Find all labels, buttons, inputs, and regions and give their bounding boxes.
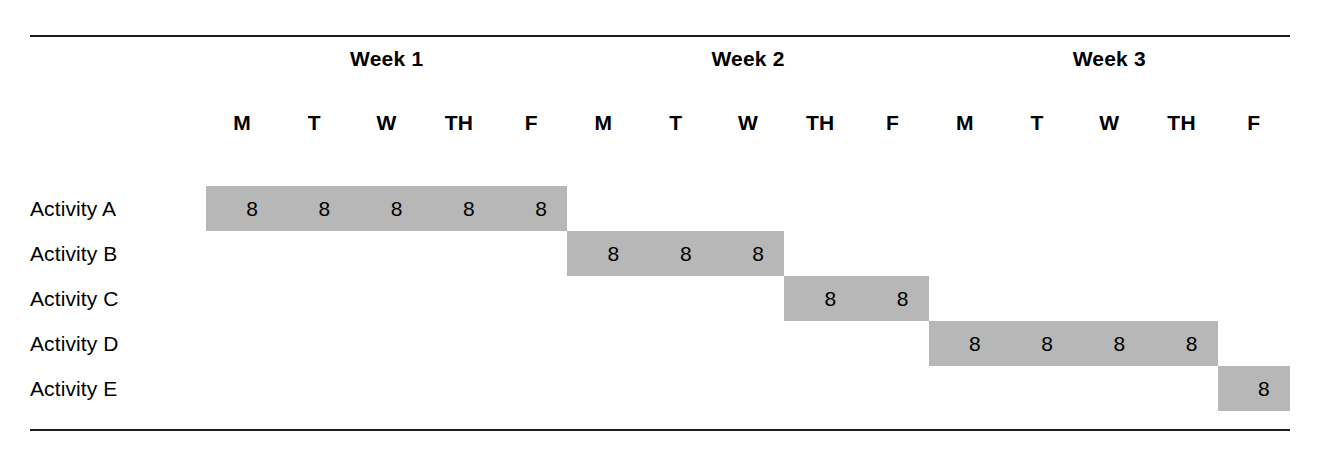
activity-label: Activity B xyxy=(30,231,206,276)
gantt-cell-value: 8 xyxy=(1228,366,1300,411)
gantt-bar-cell: 8 xyxy=(640,231,712,276)
gantt-bar-rows: 88888 888 88 8888 8 xyxy=(206,186,1290,411)
table-row: 8888 xyxy=(206,321,1290,366)
gantt-cell-value: 8 xyxy=(866,276,938,321)
activity-label: Activity D xyxy=(30,321,206,366)
day-header-cell: TH xyxy=(784,108,856,138)
gantt-bar-cell: 8 xyxy=(1001,321,1073,366)
day-header-cell: M xyxy=(567,108,639,138)
gantt-bar: 8888 xyxy=(929,321,1218,366)
day-header-cell: T xyxy=(278,108,350,138)
gantt-bar-cell: 8 xyxy=(351,186,423,231)
day-header-cell: T xyxy=(1001,108,1073,138)
gantt-bar-cell: 8 xyxy=(1218,366,1290,411)
gantt-bar-cell: 8 xyxy=(278,186,350,231)
day-header-cell: TH xyxy=(1145,108,1217,138)
gantt-bar-cell: 8 xyxy=(784,276,856,321)
day-header-row: M T W TH F M T W TH F M T W TH F xyxy=(206,108,1290,138)
day-header-cell: M xyxy=(206,108,278,138)
day-header-cell: F xyxy=(1218,108,1290,138)
day-header-cell: W xyxy=(712,108,784,138)
gantt-bar-cell: 8 xyxy=(206,186,278,231)
gantt-cell-value: 8 xyxy=(505,186,577,231)
activity-label: Activity A xyxy=(30,186,206,231)
gantt-cell-value: 8 xyxy=(1155,321,1227,366)
gantt-bar-cell: 8 xyxy=(1073,321,1145,366)
day-header-cell: F xyxy=(856,108,928,138)
week-header-cell: Week 2 xyxy=(567,44,928,74)
table-row: 88 xyxy=(206,276,1290,321)
day-header-cell: T xyxy=(640,108,712,138)
table-row: 88888 xyxy=(206,186,1290,231)
gantt-bar-cell: 8 xyxy=(929,321,1001,366)
gantt-timeline-grid: Week 1 Week 2 Week 3 M T W TH F M T W TH… xyxy=(206,0,1290,452)
gantt-bar: 888 xyxy=(567,231,784,276)
activity-label: Activity C xyxy=(30,276,206,321)
gantt-bar-cell: 8 xyxy=(1145,321,1217,366)
gantt-bar-cell: 8 xyxy=(495,186,567,231)
day-header-cell: M xyxy=(929,108,1001,138)
day-header-cell: W xyxy=(1073,108,1145,138)
gantt-bar: 8 xyxy=(1218,366,1290,411)
gantt-bar-cell: 8 xyxy=(856,276,928,321)
table-row: 888 xyxy=(206,231,1290,276)
week-header-cell: Week 3 xyxy=(929,44,1290,74)
day-header-cell: F xyxy=(495,108,567,138)
week-header-cell: Week 1 xyxy=(206,44,567,74)
gantt-bar-cell: 8 xyxy=(712,231,784,276)
day-header-cell: W xyxy=(351,108,423,138)
gantt-bar-cell: 8 xyxy=(567,231,639,276)
gantt-bar-cell: 8 xyxy=(423,186,495,231)
week-header-row: Week 1 Week 2 Week 3 xyxy=(206,44,1290,74)
day-header-cell: TH xyxy=(423,108,495,138)
gantt-bar: 88 xyxy=(784,276,929,321)
activity-label-column: Activity A Activity B Activity C Activit… xyxy=(30,186,206,411)
gantt-cell-value: 8 xyxy=(722,231,794,276)
table-row: 8 xyxy=(206,366,1290,411)
gantt-bar: 88888 xyxy=(206,186,567,231)
activity-label: Activity E xyxy=(30,366,206,411)
